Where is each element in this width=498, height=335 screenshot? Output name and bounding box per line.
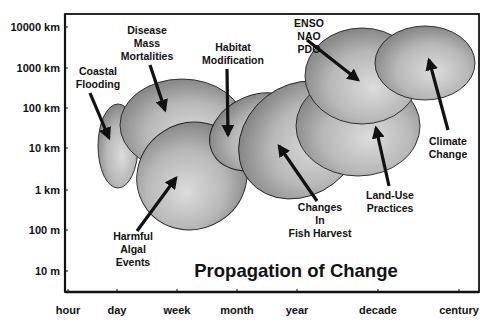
x-tick-label: week [163,304,192,316]
label-disease-mass-mortalities: DiseaseMassMortalities [121,24,174,62]
x-tick-label: day [108,304,128,316]
propagation-of-change-diagram: 10000 km1000 km100 km10 km1 km100 m10 m … [0,0,498,335]
x-tick-label: hour [56,304,81,316]
y-tick-label: 10 m [35,265,60,277]
y-tick-label: 1 km [35,184,60,196]
label-changes-in-fish-harvest: ChangesInFish Harvest [288,201,352,239]
y-tick-label: 100 km [23,102,61,114]
y-tick-label: 10 km [29,142,60,154]
y-axis: 10000 km1000 km100 km10 km1 km100 m10 m [10,21,68,277]
x-tick-label: decade [359,304,397,316]
label-enso-nao-pdo: ENSONAOPDO [294,17,324,55]
label-coastal-flooding: CoastalFlooding [76,65,120,90]
x-tick-label: year [286,304,309,316]
y-tick-label: 100 m [29,224,60,236]
label-land-use-practices: Land-UsePractices [366,189,414,214]
region-climate-change [375,26,475,100]
diagram-title: Propagation of Change [194,260,398,281]
arrow-habitat-modification [227,69,228,135]
label-habitat-modification: HabitatModification [202,41,264,66]
label-climate-change: ClimateChange [429,135,468,160]
x-tick-label: month [220,304,254,316]
y-tick-label: 1000 km [17,62,61,74]
x-tick-label: century [439,304,480,316]
y-tick-label: 10000 km [10,21,60,33]
label-harmful-algal-events: HarmfulAlgalEvents [113,230,153,268]
